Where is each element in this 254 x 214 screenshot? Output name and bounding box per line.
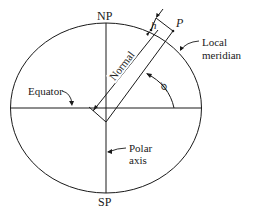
equator-label: Equator bbox=[28, 85, 63, 97]
ellipsoid-diagram bbox=[0, 0, 254, 214]
south-pole-label: SP bbox=[98, 196, 111, 208]
equator-arrowhead-icon bbox=[69, 101, 74, 106]
local-meridian-leader bbox=[181, 41, 199, 50]
polar-axis-arrowhead-icon bbox=[107, 149, 112, 154]
local-meridian-label-line2: meridian bbox=[202, 49, 241, 61]
point-p-label: P bbox=[176, 17, 183, 29]
normal-top-cap bbox=[156, 18, 173, 31]
normal-bottom-cap bbox=[89, 107, 106, 122]
polar-axis-label-line2: axis bbox=[129, 154, 147, 166]
latitude-arrowhead-icon bbox=[146, 73, 152, 78]
point-p-dot bbox=[172, 30, 175, 33]
local-meridian-label-line1: Local bbox=[202, 36, 227, 48]
polar-axis-label-line1: Polar bbox=[129, 142, 152, 154]
height-label: h bbox=[151, 19, 157, 31]
north-pole-label: NP bbox=[97, 10, 112, 22]
